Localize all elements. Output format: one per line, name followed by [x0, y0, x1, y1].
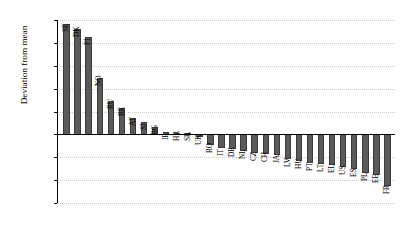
bar-lt: [318, 134, 324, 163]
bar-es: [351, 134, 357, 169]
bar-label-us: US: [338, 166, 347, 175]
bar-label-be: BE: [117, 107, 126, 116]
bar-label-uk: UK: [194, 134, 203, 144]
bar-label-at: AT: [128, 118, 137, 127]
bar-label-fi: FI: [83, 39, 92, 45]
gridline: [57, 66, 395, 67]
bar-label-ee: EE: [371, 174, 380, 183]
bar-ee: [373, 134, 379, 174]
bar-hu: [296, 134, 302, 161]
bar-label-hr: HR: [172, 131, 181, 141]
plot-area: 2.502.001.501.000.500.00−0.50−1.00−1.50 …: [57, 20, 395, 203]
y-tick-mark: [54, 203, 57, 204]
bar-label-se: SE: [61, 23, 70, 31]
bar-pt: [307, 134, 313, 162]
bar-lv: [285, 134, 291, 158]
bar-pl: [362, 134, 368, 172]
bar-us: [340, 134, 346, 167]
y-axis-title: Deviation from mean: [19, 0, 29, 135]
bar-fr: [384, 134, 390, 186]
bar-label-es: ES: [349, 169, 358, 177]
bar-label-pt: PT: [305, 162, 314, 170]
gridline: [57, 20, 395, 21]
bar-chart: Deviation from mean 2.502.001.501.000.50…: [0, 0, 409, 228]
bar-el: [329, 134, 335, 164]
bar-label-it: IT: [216, 149, 225, 156]
bar-label-ro: RO: [205, 143, 214, 153]
bar-label-ja: JA: [272, 154, 281, 162]
bar-se: [63, 24, 69, 135]
bar-it: [218, 134, 224, 148]
bar-no: [97, 78, 103, 134]
bar-ja: [274, 134, 280, 154]
bar-label-dk: DK: [72, 27, 81, 37]
gridline: [57, 89, 395, 90]
bar-label-hu: HU: [294, 158, 303, 168]
bar-label-cz: CZ: [249, 152, 258, 161]
bar-label-lv: LV: [283, 158, 292, 167]
bar-dk: [74, 29, 80, 134]
y-axis-line: [57, 20, 58, 203]
bar-label-ru: RU: [106, 98, 115, 108]
bar-label-nl: NL: [238, 149, 247, 159]
bar-label-lt: LT: [316, 163, 325, 171]
bar-label-ch: CH: [260, 152, 269, 162]
bar-label-el: EL: [327, 164, 336, 173]
bar-ch: [263, 134, 269, 153]
bar-label-fr: FR: [382, 185, 391, 194]
bar-label-de: DE: [227, 147, 236, 157]
bar-fi: [85, 37, 91, 134]
gridline: [57, 203, 395, 204]
bar-label-pl: PL: [360, 172, 369, 180]
zero-baseline: [57, 134, 395, 135]
gridline: [57, 43, 395, 44]
bar-label-si: SI: [139, 124, 148, 130]
bar-label-no: NO: [94, 76, 103, 86]
bar-cz: [251, 134, 257, 153]
gridline: [57, 180, 395, 181]
